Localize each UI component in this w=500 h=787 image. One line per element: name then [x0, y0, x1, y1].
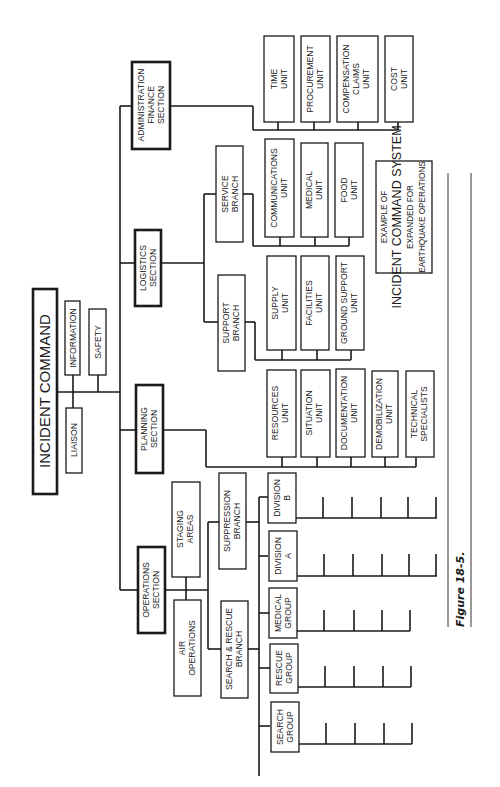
information-box: INFORMATION [65, 301, 80, 375]
staging-areas-box: STAGING AREAS [172, 482, 200, 577]
svg-text:PLANNING: PLANNING [139, 407, 149, 451]
air-operations-box: AIR OPERATIONS [174, 600, 201, 696]
svg-text:FINANCE: FINANCE [146, 86, 156, 124]
svg-text:GROUP: GROUP [284, 652, 294, 684]
facilities-unit-box: FACILITIES UNIT [301, 256, 329, 350]
svg-text:MEDICAL: MEDICAL [273, 594, 283, 632]
svg-text:SECTION: SECTION [149, 410, 159, 448]
svg-text:EXPANDED FOR: EXPANDED FOR [406, 185, 415, 249]
svg-text:SAFETY: SAFETY [93, 325, 103, 359]
svg-text:UNIT: UNIT [349, 402, 359, 423]
division-a-box: DIVISION A [269, 531, 297, 581]
technical-specialists-box: TECHNICAL SPECIALISTS [406, 371, 434, 457]
svg-text:SEARCH & RESCUE: SEARCH & RESCUE [224, 608, 234, 690]
svg-text:SECTION: SECTION [156, 86, 166, 124]
svg-text:UNIT: UNIT [399, 68, 409, 89]
svg-text:OPERATIONS: OPERATIONS [187, 620, 197, 676]
svg-text:RESOURCES: RESOURCES [270, 386, 280, 441]
documentation-unit-box: DOCUMENTATION UNIT [336, 369, 365, 457]
svg-text:UNIT: UNIT [314, 179, 324, 200]
svg-text:UNIT: UNIT [314, 402, 324, 423]
time-unit-box: TIME UNIT [264, 36, 294, 122]
svg-text:MEDICAL: MEDICAL [304, 171, 314, 209]
svg-text:UNIT: UNIT [280, 292, 290, 313]
supply-unit-box: SUPPLY UNIT [267, 256, 296, 350]
svg-text:COST: COST [389, 66, 399, 91]
svg-text:SECTION: SECTION [148, 249, 158, 287]
svg-text:TIME: TIME [269, 68, 279, 89]
incident-command-label: INCIDENT COMMAND [36, 314, 53, 468]
procurement-unit-box: PROCUREMENT UNIT [301, 36, 330, 122]
svg-text:SUPPRESSION: SUPPRESSION [222, 490, 232, 552]
admin-finance-section-box: ADMINISTRATION FINANCE SECTION [132, 62, 170, 149]
rescue-group-box: RESCUE GROUP [270, 644, 298, 693]
service-branch-box: SERVICE BRANCH [216, 146, 243, 242]
svg-text:ADMINISTRATION: ADMINISTRATION [136, 69, 146, 142]
svg-text:UNIT: UNIT [315, 68, 325, 89]
demobilization-unit-box: DEMOBILIZATION UNIT [372, 371, 398, 457]
svg-text:UNIT: UNIT [349, 179, 359, 200]
svg-text:BRANCH: BRANCH [230, 176, 240, 212]
svg-text:SITUATION: SITUATION [304, 390, 314, 435]
svg-text:SUPPORT: SUPPORT [221, 302, 231, 344]
svg-text:GROUP: GROUP [285, 711, 295, 743]
svg-text:INCIDENT COMMAND SYSTEM: INCIDENT COMMAND SYSTEM [390, 125, 404, 308]
svg-text:COMMUNICATIONS: COMMUNICATIONS [269, 148, 279, 228]
caption-box: EXAMPLE OF INCIDENT COMMAND SYSTEM EXPAN… [376, 125, 432, 308]
svg-text:BRANCH: BRANCH [232, 503, 242, 539]
svg-text:SERVICE: SERVICE [220, 175, 230, 213]
svg-text:FOOD: FOOD [339, 178, 349, 203]
svg-text:UNIT: UNIT [280, 402, 290, 423]
svg-text:OPERATIONS: OPERATIONS [141, 562, 151, 618]
svg-text:AIR: AIR [177, 641, 187, 655]
suppression-branch-box: SUPPRESSION BRANCH [219, 473, 246, 569]
svg-text:SUPPLY: SUPPLY [270, 286, 280, 320]
svg-text:CLAIMS: CLAIMS [351, 63, 361, 95]
svg-text:DIVISION: DIVISION [272, 479, 282, 517]
cost-unit-box: COST UNIT [385, 36, 413, 122]
svg-text:STAGING: STAGING [175, 510, 185, 548]
division-b-box: DIVISION B [268, 473, 296, 523]
svg-text:B: B [282, 495, 292, 501]
svg-text:COMPENSATION: COMPENSATION [341, 44, 351, 113]
medical-group-box: MEDICAL GROUP [269, 588, 297, 638]
resources-unit-box: RESOURCES UNIT [267, 370, 296, 457]
compensation-claims-unit-box: COMPENSATION CLAIMS UNIT [337, 36, 378, 122]
operations-section-box: OPERATIONS SECTION [138, 547, 165, 633]
figure-label: Figure 18-5. [454, 552, 467, 627]
svg-text:UNIT: UNIT [349, 292, 359, 313]
svg-text:INFORMATION: INFORMATION [68, 308, 78, 368]
svg-text:AREAS: AREAS [185, 514, 195, 543]
situation-unit-box: SITUATION UNIT [301, 370, 330, 457]
svg-text:A: A [283, 553, 293, 559]
svg-text:LOGISTICS: LOGISTICS [138, 245, 148, 291]
search-group-box: SEARCH GROUP [271, 702, 299, 752]
svg-text:SEARCH: SEARCH [275, 709, 285, 745]
ground-support-unit-box: GROUND SUPPORT UNIT [336, 256, 364, 350]
support-branch-box: SUPPORT BRANCH [218, 275, 245, 371]
svg-text:FACILITIES: FACILITIES [304, 280, 314, 326]
svg-text:DOCUMENTATION: DOCUMENTATION [339, 376, 349, 451]
food-unit-box: FOOD UNIT [335, 143, 363, 237]
liaison-box: LIAISON [66, 408, 82, 473]
incident-command-box: INCIDENT COMMAND [33, 289, 57, 494]
svg-text:UNIT: UNIT [384, 403, 394, 424]
svg-text:BRANCH: BRANCH [231, 305, 241, 341]
svg-text:SPECIALISTS: SPECIALISTS [419, 386, 429, 442]
svg-text:EXAMPLE OF: EXAMPLE OF [380, 191, 389, 243]
svg-text:DIVISION: DIVISION [273, 537, 283, 575]
svg-text:TECHNICAL: TECHNICAL [409, 389, 419, 438]
org-chart: INCIDENT COMMAND INFORMATION SAFETY LIAI… [0, 0, 500, 787]
planning-section-box: PLANNING SECTION [136, 385, 163, 473]
svg-text:LIAISON: LIAISON [69, 423, 79, 457]
svg-text:RESCUE: RESCUE [274, 650, 284, 686]
svg-text:DEMOBILIZATION: DEMOBILIZATION [374, 378, 384, 450]
logistics-section-box: LOGISTICS SECTION [135, 230, 161, 306]
safety-box: SAFETY [89, 309, 106, 375]
svg-text:GROUP: GROUP [283, 597, 293, 629]
svg-text:UNIT: UNIT [279, 68, 289, 89]
svg-text:UNIT: UNIT [361, 68, 371, 89]
svg-text:SECTION: SECTION [151, 571, 161, 609]
search-rescue-branch-box: SEARCH & RESCUE BRANCH [221, 601, 248, 698]
communications-unit-box: COMMUNICATIONS UNIT [265, 139, 294, 237]
